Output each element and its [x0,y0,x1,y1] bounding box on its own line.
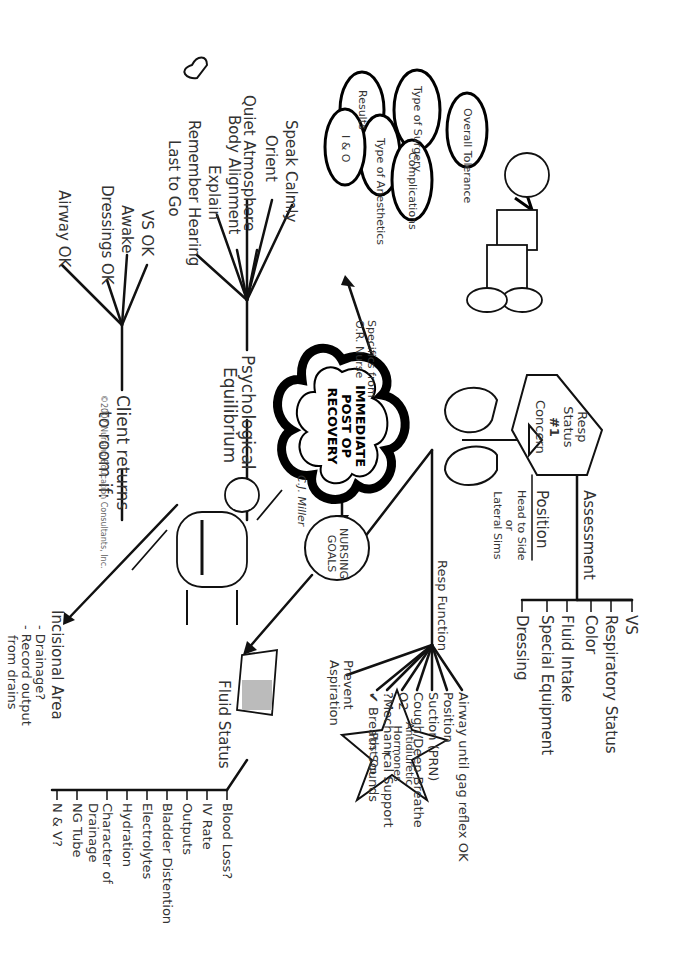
patient-figure [132,478,282,625]
position-detail: Head to Side or Lateral Sims [491,490,527,561]
hexagon-line: Resp [575,400,589,454]
signature: C.J. Miller [295,475,307,526]
or-nurse-label: Specifics from O.R. Nurse [353,320,377,398]
resp-function-item: Prevent Aspiration [327,660,355,730]
star-line: Hormones [391,722,403,785]
mind-map-sheet: IMMEDIATE POST OP RECOVERY C.J. Miller S… [0,0,677,967]
resp-function-item: Airway until gag reflex OK [456,692,470,861]
bubble-complications: Complications [406,152,418,230]
fluid-status-item: IV Rate [200,803,214,850]
fluid-status-item: Electrolytes [140,803,154,879]
nursing-goals-line: GOALS [325,528,337,579]
incisional-area-item: from drains [5,625,19,726]
position-line: or [503,490,515,561]
fluid-status-item: Hydration [120,803,134,867]
fluid-status-item: NG Tube [70,803,84,857]
bubble-type-of-anesthetics: Type of Anesthetics [374,138,386,245]
bubble-results: Results [356,90,368,130]
assessment-label: Assessment [581,490,597,580]
psychological-item: Remember Hearing [186,120,202,266]
position-label: Position [534,490,550,548]
center-title-line: POST OP [339,385,353,467]
psychological-item: Speak Calmly [283,120,299,222]
position-line: Head to Side [515,490,527,561]
client-returns-item: Dressings OK [99,185,115,285]
assessment-item: Color [583,615,599,654]
resp-status-hexagon-text: Resp Status #1 Concern [533,400,589,454]
resp-function-item: Suction (PRN) [426,692,440,781]
copyright-notice: ©2007 Nursing Education Consultants, Inc… [97,395,109,569]
or-nurse-figure [467,153,549,312]
fluid-status-item: N & V? [50,803,64,847]
hexagon-line: #1 [547,400,561,454]
psychological-item: Last to Go [166,140,182,217]
psychological-label: Psychological Equilibrium [221,355,257,470]
psychological-line: Psychological [239,355,257,470]
fluid-status-item: Bladder Distention [160,803,174,924]
assessment-item: Fluid Intake [559,615,575,702]
star-text: Antidiuretic Hormones ↑ Post Op [367,722,415,785]
bubble-overall-tolerance: Overall Tolerance [461,108,473,203]
incisional-area-detail: - Drainage? - Record output from drains [5,625,47,726]
resp-function-label: Resp Function [435,560,449,651]
psychological-item: Quiet Atmosphere [241,95,257,231]
assessment-item: Dressing [514,615,530,680]
psychological-item: Body Alignment [226,115,242,235]
position-line: Lateral Sims [491,490,503,561]
psychological-item: Orient [263,135,279,182]
assessment-item: VS [623,615,639,635]
incisional-area-label: Incisional Area [49,610,65,720]
psychological-item: Explain [206,165,222,220]
ear-icon [184,58,207,79]
client-returns-item: Awake [119,205,135,254]
or-nurse-label-line: Specifics from [365,320,377,398]
client-returns-item: Airway OK [56,190,72,267]
fluid-status-item: Outputs [180,803,194,855]
fluid-status-item: Character of Drainage [86,803,114,903]
client-returns-item: VS OK [139,210,155,256]
resp-function-item: O2 [396,692,410,711]
assessment-item: Special Equipment [539,615,555,755]
nursing-goals-label: NURSING GOALS [325,528,349,579]
psychological-line: Equilibrium [221,355,239,470]
or-nurse-label-line: O.R. Nurse [353,320,365,398]
center-title-line: RECOVERY [325,385,339,467]
incisional-area-item: - Record output [19,625,33,726]
incisional-area-item: - Drainage? [33,625,47,726]
resp-function-item: Position [441,692,455,743]
diagram-canvas: IMMEDIATE POST OP RECOVERY C.J. Miller S… [0,0,677,967]
fluid-status-label: Fluid Status [216,680,232,769]
fluid-status-item: Blood Loss? [220,803,234,879]
star-line: Post Op [367,722,379,785]
hexagon-line: Status [561,400,575,454]
nursing-goals-line: NURSING [337,528,349,579]
client-returns-line: Client returns [114,395,132,510]
star-line: ↑ [379,722,391,785]
hexagon-line: Concern [533,400,547,454]
assessment-item: Respiratory Status [603,615,619,754]
fluid-cup-icon [237,650,277,715]
bubble-i-and-o: I & O [339,135,351,162]
star-line: Antidiuretic [403,722,415,785]
